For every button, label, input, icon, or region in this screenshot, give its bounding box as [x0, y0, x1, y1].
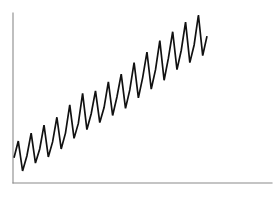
series-line-value — [14, 15, 207, 171]
chart-canvas — [0, 0, 278, 200]
chart-figure — [0, 0, 278, 200]
plot-area — [14, 15, 207, 171]
axes-group — [13, 13, 272, 183]
